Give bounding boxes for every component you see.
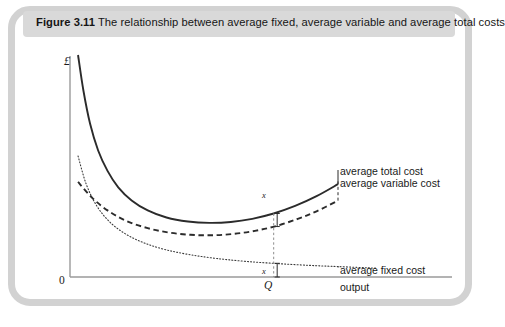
- label-average-variable-cost: average variable cost: [340, 177, 440, 189]
- y-axis-label: £: [64, 54, 70, 69]
- figure-title: Figure 3.11 The relationship between ave…: [36, 16, 456, 28]
- figure-number: Figure 3.11: [36, 16, 95, 28]
- figure-caption: The relationship between average fixed, …: [98, 16, 505, 28]
- lower-gap-label: x: [262, 266, 266, 276]
- label-average-fixed-cost: average fixed cost: [340, 264, 425, 276]
- upper-gap-label: x: [262, 190, 266, 200]
- origin-label: 0: [59, 274, 65, 286]
- output-q-label: Q: [264, 279, 272, 291]
- label-average-total-cost: average total cost: [340, 165, 423, 177]
- label-output-axis: output: [340, 281, 369, 293]
- figure-frame: [8, 6, 472, 306]
